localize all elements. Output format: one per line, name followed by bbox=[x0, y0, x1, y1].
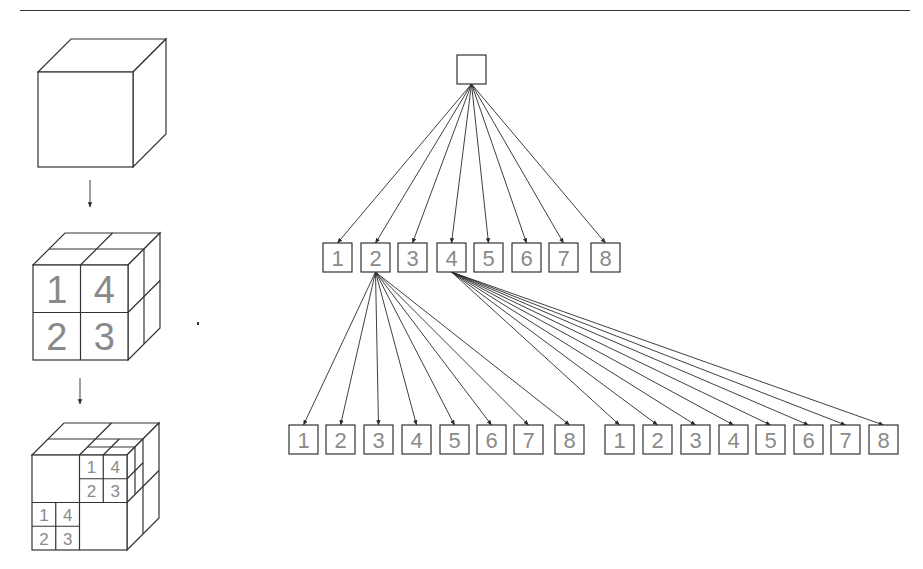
tree-level2-node: 6 bbox=[794, 425, 823, 454]
tree-edge bbox=[376, 272, 492, 425]
tree-edge bbox=[452, 272, 884, 425]
tree-edge bbox=[452, 272, 846, 425]
node-label: 7 bbox=[557, 246, 569, 271]
cube-cell-label: 2 bbox=[46, 316, 67, 358]
tree-edge bbox=[452, 272, 620, 425]
cube-cell-label: 1 bbox=[46, 269, 67, 311]
tree-level2-node: 2 bbox=[643, 425, 672, 454]
tree-level1-node: 6 bbox=[512, 243, 541, 272]
tree-level2-node: 2 bbox=[326, 425, 355, 454]
tree-level1-node: 7 bbox=[549, 243, 578, 272]
node-label: 1 bbox=[297, 428, 309, 453]
node-label: 4 bbox=[410, 428, 422, 453]
cube-cell-label: 4 bbox=[94, 269, 115, 311]
node-label: 5 bbox=[482, 246, 494, 271]
octree-figure: 142314231423 123456781234567812345678 bbox=[0, 0, 923, 569]
node-label: 7 bbox=[839, 428, 851, 453]
cube-cell-label: 4 bbox=[110, 458, 119, 477]
tree-level1-node: 5 bbox=[474, 243, 503, 272]
cube-cell-label: 4 bbox=[63, 506, 72, 525]
tree-edge bbox=[472, 84, 606, 243]
tree-level2-node: 4 bbox=[719, 425, 748, 454]
node-label: 8 bbox=[563, 428, 575, 453]
tree-edge bbox=[376, 272, 379, 425]
tree-edge bbox=[472, 84, 564, 243]
tree-edge bbox=[452, 272, 734, 425]
tree-level1-node: 2 bbox=[361, 243, 390, 272]
tree-edge bbox=[376, 272, 417, 425]
tree-level2-node: 3 bbox=[364, 425, 393, 454]
tree-edge bbox=[413, 84, 472, 243]
tree-level2-node: 1 bbox=[605, 425, 634, 454]
tree-level2-node: 6 bbox=[477, 425, 506, 454]
tree-level2-node: 1 bbox=[289, 425, 318, 454]
tree-edge bbox=[376, 272, 570, 425]
cube-cell-label: 2 bbox=[87, 482, 96, 501]
cube-cell-label: 3 bbox=[110, 482, 119, 501]
tree-level2-node: 5 bbox=[440, 425, 469, 454]
tree-edge bbox=[452, 272, 658, 425]
node-label: 1 bbox=[613, 428, 625, 453]
cube-cell-label: 1 bbox=[87, 458, 96, 477]
tree-level2-node: 5 bbox=[756, 425, 785, 454]
node-label: 8 bbox=[877, 428, 889, 453]
node-label: 2 bbox=[369, 246, 381, 271]
tree-edge bbox=[341, 272, 376, 425]
node-label: 6 bbox=[802, 428, 814, 453]
node-label: 2 bbox=[651, 428, 663, 453]
tree-level2-node: 8 bbox=[555, 425, 584, 454]
tree-edge bbox=[338, 84, 472, 243]
node-label: 1 bbox=[331, 246, 343, 271]
node-label: 6 bbox=[520, 246, 532, 271]
cube-cell-label: 2 bbox=[39, 530, 48, 549]
tree-edge bbox=[452, 272, 696, 425]
tree-level2-node: 3 bbox=[681, 425, 710, 454]
node-label: 3 bbox=[372, 428, 384, 453]
node-label: 4 bbox=[445, 246, 457, 271]
node-label: 5 bbox=[764, 428, 776, 453]
cube-cell-label: 3 bbox=[63, 530, 72, 549]
tree-level2-node: 7 bbox=[514, 425, 543, 454]
tree-level2-node: 7 bbox=[831, 425, 860, 454]
tree-nodes: 123456781234567812345678 bbox=[289, 55, 898, 454]
node-label: 5 bbox=[448, 428, 460, 453]
cube-level-0 bbox=[38, 39, 166, 167]
node-label: 3 bbox=[406, 246, 418, 271]
tree-edge bbox=[452, 84, 472, 243]
tree-edge bbox=[376, 84, 472, 243]
node-label: 3 bbox=[689, 428, 701, 453]
tree-edge bbox=[304, 272, 376, 425]
cube-level-1: 1423 bbox=[33, 233, 160, 360]
stray-mark bbox=[197, 322, 199, 325]
cube-level-2: 14231423 bbox=[32, 423, 159, 550]
tree-level1-node: 1 bbox=[323, 243, 352, 272]
node-label: 7 bbox=[522, 428, 534, 453]
tree-level2-node: 8 bbox=[869, 425, 898, 454]
node-label: 2 bbox=[334, 428, 346, 453]
tree-level1-node: 4 bbox=[437, 243, 466, 272]
tree-root-node bbox=[457, 55, 486, 84]
tree-level1-node: 8 bbox=[591, 243, 620, 272]
cube-front-face bbox=[38, 72, 133, 167]
tree-edge bbox=[376, 272, 455, 425]
tree-level2-node: 4 bbox=[402, 425, 431, 454]
node-label: 6 bbox=[485, 428, 497, 453]
cube-cell-label: 3 bbox=[94, 316, 115, 358]
cube-subdivision-panel: 142314231423 bbox=[32, 39, 166, 550]
tree-edge bbox=[452, 272, 771, 425]
node-label: 8 bbox=[599, 246, 611, 271]
node-label: 4 bbox=[727, 428, 739, 453]
tree-level1-node: 3 bbox=[398, 243, 427, 272]
cube-cell-label: 1 bbox=[39, 506, 48, 525]
